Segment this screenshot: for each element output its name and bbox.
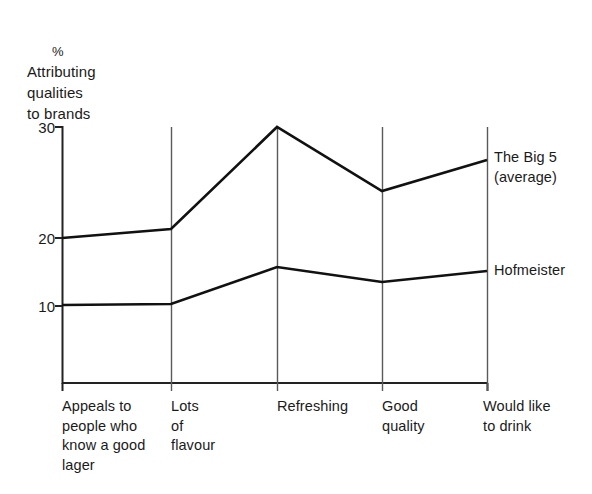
line-chart: %Attributing qualities to brands 30 20 1… (0, 0, 592, 494)
category-label-lots-of-flavour: Lots of flavour (171, 397, 271, 456)
y-tick-label-20: 20 (25, 231, 55, 246)
y-tick-label-10: 10 (25, 299, 55, 314)
series-line-hofmeister (62, 267, 487, 305)
series-label-big5: The Big 5 (average) (494, 148, 590, 187)
category-label-would-like-to-drink: Would like to drink (483, 397, 589, 436)
series-line-big5 (62, 127, 487, 238)
category-label-refreshing: Refreshing (277, 397, 381, 417)
y-tick-label-30: 30 (25, 120, 55, 135)
series-label-hofmeister: Hofmeister (494, 261, 590, 281)
category-label-good-quality: Good quality (382, 397, 482, 436)
category-label-appeals-to-people: Appeals to people who know a good lager (62, 397, 170, 475)
